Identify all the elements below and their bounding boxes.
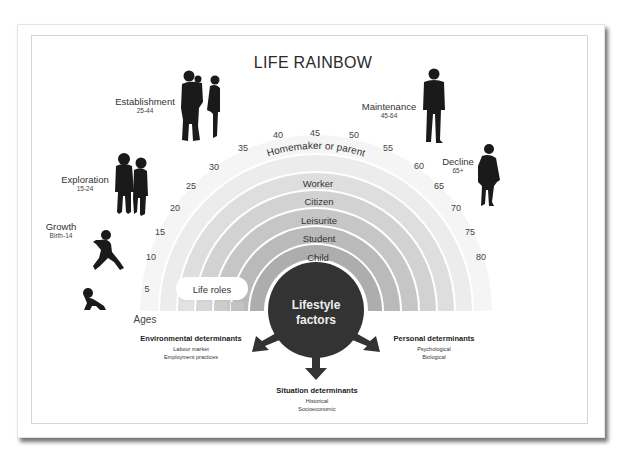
age-55: 55 [383, 143, 393, 153]
stage-exploration: Exploration 15-24 [60, 175, 110, 193]
lifestyle-factors-label: Lifestyle factors [276, 298, 356, 328]
age-70: 70 [451, 203, 461, 213]
age-20: 20 [170, 203, 180, 213]
situation-determinants: Situation determinants Historical Socioe… [262, 386, 372, 413]
stage-establishment: Establishment 25-44 [110, 97, 180, 115]
adult-man-silhouette-icon [423, 69, 445, 144]
role-worker: Worker [303, 178, 333, 189]
family-silhouette-icon [181, 71, 220, 142]
ages-label: Ages [134, 314, 157, 325]
age-50: 50 [349, 130, 359, 140]
toddler-silhouette-icon [93, 230, 124, 270]
stage-growth: Growth Birth-14 [40, 222, 82, 240]
personal-determinants: Personal determinants Psychological Biol… [380, 334, 488, 361]
age-15: 15 [155, 227, 165, 237]
stage-maintenance: Maintenance 45-64 [357, 102, 421, 120]
age-35: 35 [238, 143, 248, 153]
age-45: 45 [310, 128, 320, 138]
elderly-silhouette-icon [478, 144, 500, 206]
age-40: 40 [273, 130, 283, 140]
role-child: Child [307, 252, 329, 263]
age-5: 5 [144, 284, 149, 294]
age-80: 80 [476, 252, 486, 262]
age-65: 65 [434, 181, 444, 191]
role-leisurite: Leisurite [301, 215, 337, 226]
baby-silhouette-icon [83, 288, 106, 310]
age-75: 75 [465, 227, 475, 237]
role-student: Student [303, 233, 336, 244]
age-30: 30 [209, 162, 219, 172]
age-25: 25 [186, 181, 196, 191]
role-citizen: Citizen [304, 196, 333, 207]
life-roles-label: Life roles [193, 284, 232, 295]
age-60: 60 [414, 161, 424, 171]
page-title: LIFE RAINBOW [0, 54, 626, 72]
environmental-determinants: Environmental determinants Labour market… [128, 334, 254, 361]
teens-silhouette-icon [115, 153, 148, 216]
stage-decline: Decline 65+ [436, 157, 480, 175]
age-10: 10 [146, 252, 156, 262]
